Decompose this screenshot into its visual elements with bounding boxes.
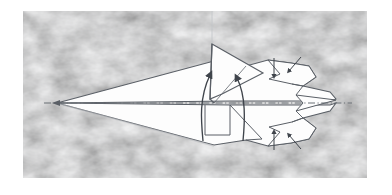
origami-instruction-figure	[0, 0, 392, 195]
paper-plane-line-art	[0, 0, 392, 195]
nose-tip	[52, 100, 60, 106]
